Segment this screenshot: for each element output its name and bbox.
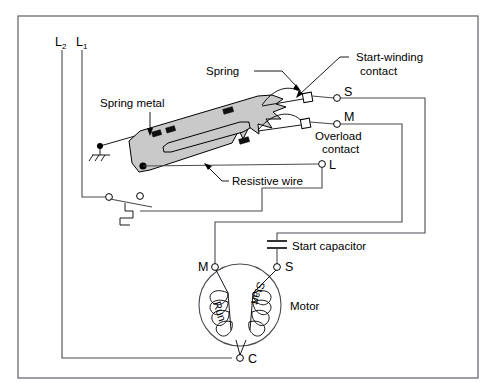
wire-contact-to-m xyxy=(310,122,334,124)
terminal-node-s xyxy=(334,95,341,102)
label-l2: L2 xyxy=(55,35,67,51)
diagram-page: L2 L1 Spring metal Spring Start-winding … xyxy=(0,0,498,391)
heater-zigzag-element xyxy=(120,203,133,225)
common-lead-left xyxy=(236,340,240,355)
motor-terminal-c xyxy=(237,355,244,362)
motor-terminal-m xyxy=(212,264,219,271)
label-terminal-m: M xyxy=(344,110,354,124)
label-start-winding: Start xyxy=(249,280,268,306)
label-l1: L1 xyxy=(76,35,88,51)
label-motor-terminal-m: M xyxy=(198,260,208,274)
start-capacitor-symbol xyxy=(267,241,287,264)
overload-contact-block xyxy=(300,118,310,128)
motor-terminal-s xyxy=(274,264,281,271)
label-overload-contact-line1: Overload xyxy=(315,130,362,142)
wire-contact-to-s xyxy=(312,96,334,98)
terminal-node-m xyxy=(334,121,341,128)
switch-blade xyxy=(110,199,152,207)
manual-switch[interactable] xyxy=(106,193,152,207)
switch-right-node xyxy=(137,193,144,200)
label-motor-terminal-c: C xyxy=(248,352,257,366)
label-start-winding-contact-line1: Start-winding xyxy=(356,51,423,63)
label-motor: Motor xyxy=(290,300,320,312)
start-winding-contact-block xyxy=(302,92,312,102)
terminal-node-l xyxy=(319,161,326,168)
label-terminal-s: S xyxy=(344,85,352,99)
label-start-capacitor: Start capacitor xyxy=(292,240,366,252)
label-terminal-l: L xyxy=(329,158,336,172)
label-start-winding-contact-line2: contact xyxy=(360,65,398,77)
wire-l1-to-switch xyxy=(82,50,105,197)
resistive-wire-conductor xyxy=(143,164,318,166)
common-lead-right xyxy=(240,340,246,355)
leader-start-winding-contact xyxy=(296,57,349,98)
label-spring: Spring xyxy=(206,65,239,77)
label-overload-contact-line2: contact xyxy=(322,143,360,155)
label-run-winding: Run xyxy=(211,300,229,323)
label-spring-metal: Spring metal xyxy=(100,97,165,109)
label-motor-terminal-s: S xyxy=(285,260,293,274)
motor-body-circle xyxy=(199,264,281,346)
label-resistive-wire: Resistive wire xyxy=(232,175,303,187)
leader-spring xyxy=(254,71,301,91)
run-winding-lead xyxy=(216,270,228,293)
schematic-svg: L2 L1 Spring metal Spring Start-winding … xyxy=(0,0,498,391)
